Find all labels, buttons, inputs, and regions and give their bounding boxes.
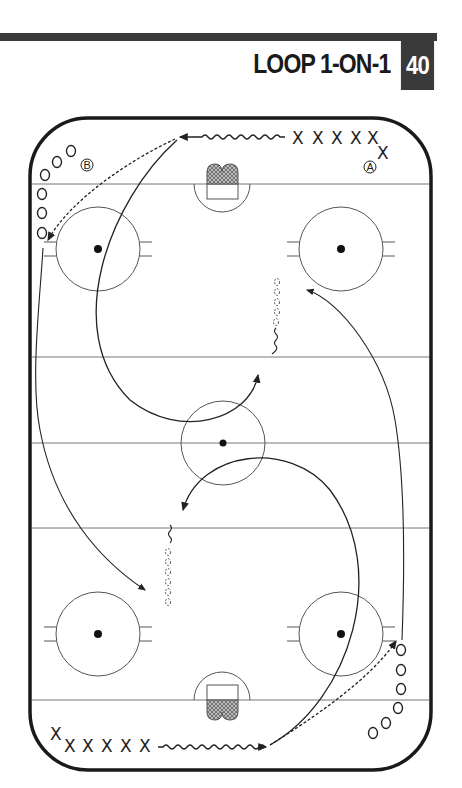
- svg-text:X: X: [64, 736, 76, 756]
- bottom-net: [207, 700, 238, 720]
- top-net: [207, 164, 238, 184]
- rink-lines: [32, 184, 429, 700]
- svg-text:X: X: [120, 736, 132, 756]
- top-crease-box: [207, 184, 238, 199]
- rink-boards: [30, 118, 431, 770]
- faceoff-dot: [337, 630, 345, 638]
- offense-players-top: X X X X X X: [292, 128, 389, 163]
- faceoff-dot: [94, 630, 102, 638]
- player-label-a: A: [364, 161, 376, 173]
- svg-text:X: X: [350, 128, 362, 148]
- bottom-crease-box: [207, 685, 238, 700]
- center-dot: [220, 440, 227, 447]
- faceoff-dot: [337, 245, 345, 253]
- offense-players-bottom: X X X X X X: [50, 724, 151, 756]
- faceoff-dot: [94, 245, 102, 253]
- puck-carry-path-left: [36, 248, 145, 590]
- svg-text:X: X: [331, 128, 343, 148]
- defense-players-top-left: [38, 146, 76, 239]
- rink-diagram: X X X X X X X X X X X X B A: [0, 0, 462, 788]
- svg-text:X: X: [82, 736, 94, 756]
- puck-carry-path-top: [180, 135, 285, 139]
- svg-text:X: X: [50, 724, 62, 744]
- svg-text:X: X: [139, 736, 151, 756]
- player-label-b: B: [81, 159, 93, 171]
- svg-text:X: X: [101, 736, 113, 756]
- defense-players-bottom-right: [369, 645, 406, 739]
- puck-carry-path-right: [307, 290, 404, 640]
- pylons-top: [274, 279, 280, 326]
- svg-text:A: A: [367, 161, 375, 173]
- svg-text:X: X: [312, 128, 324, 148]
- puck-carry-path-bottom: [158, 745, 266, 749]
- svg-text:X: X: [292, 128, 304, 148]
- svg-text:X: X: [377, 143, 389, 163]
- svg-text:B: B: [84, 159, 91, 171]
- pylons-bottom: [166, 549, 171, 606]
- short-squiggle-top: [272, 328, 278, 354]
